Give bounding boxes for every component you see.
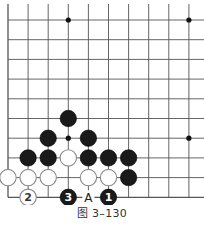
black-stone-icon — [80, 130, 96, 146]
white-stone-icon — [80, 169, 96, 185]
white-stone — [40, 169, 56, 185]
star-point-icon — [186, 17, 191, 22]
black-stone-icon — [60, 110, 76, 126]
black-stone-icon — [120, 169, 136, 185]
black-stone — [20, 150, 36, 166]
board-grid — [8, 4, 204, 197]
black-stone-icon — [40, 130, 56, 146]
black-stone-icon — [40, 150, 56, 166]
white-stone-icon — [60, 150, 76, 166]
black-stone — [120, 150, 136, 166]
white-stone-icon — [40, 169, 56, 185]
white-stone — [0, 169, 16, 185]
black-stone — [80, 130, 96, 146]
black-stone — [120, 169, 136, 185]
white-stone-icon — [20, 169, 36, 185]
black-stone-icon — [100, 150, 116, 166]
board-markers: A — [82, 190, 94, 205]
move-number-label: 2 — [24, 191, 32, 204]
move-number-label: 3 — [64, 191, 72, 204]
black-stone: 1 — [100, 189, 116, 205]
black-stone: 3 — [60, 189, 76, 205]
white-stone-icon — [0, 169, 16, 185]
black-stone — [40, 130, 56, 146]
board-stones: 231 — [0, 110, 137, 205]
black-stone — [80, 150, 96, 166]
black-stone — [60, 110, 76, 126]
star-point-icon — [66, 17, 71, 22]
white-stone-icon — [100, 169, 116, 185]
black-stone — [40, 150, 56, 166]
black-stone — [100, 150, 116, 166]
figure-caption: 图 3–130 — [0, 204, 204, 220]
move-number-label: 1 — [105, 191, 113, 204]
white-stone — [20, 169, 36, 185]
black-stone-icon — [20, 150, 36, 166]
black-stone-icon — [120, 150, 136, 166]
star-point-icon — [186, 136, 191, 141]
go-board-diagram: A 231 — [0, 0, 204, 205]
position-marker-label: A — [84, 191, 93, 205]
white-stone — [80, 169, 96, 185]
white-stone — [60, 150, 76, 166]
star-point-icon — [66, 136, 71, 141]
black-stone-icon — [80, 150, 96, 166]
white-stone — [100, 169, 116, 185]
white-stone: 2 — [20, 189, 36, 205]
